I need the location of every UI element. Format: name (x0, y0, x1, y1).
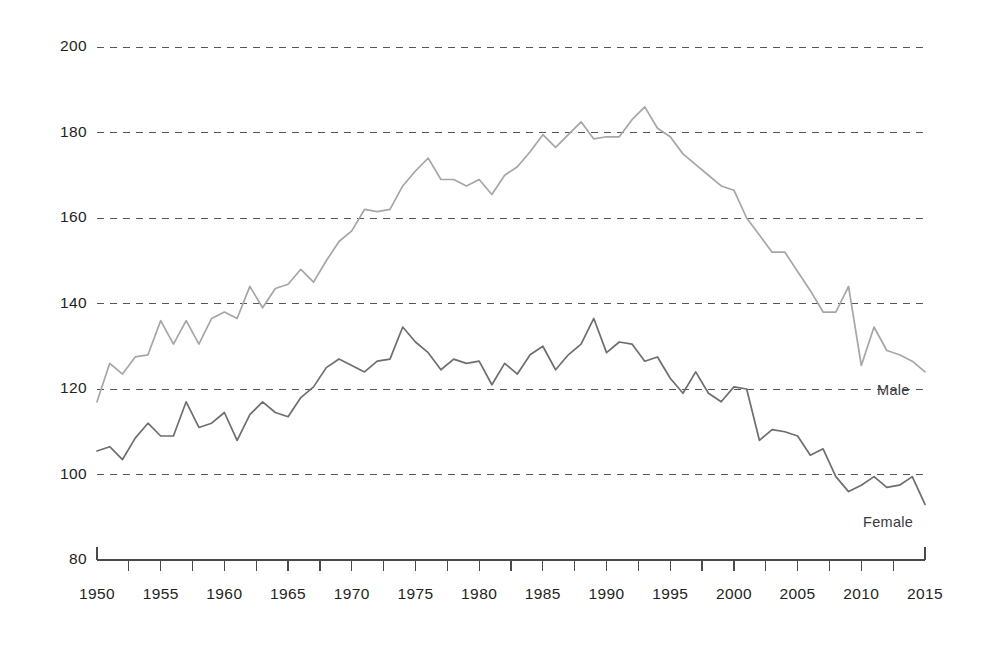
y-tick-label: 120 (35, 379, 87, 397)
x-tick-label: 2005 (768, 585, 828, 603)
gridlines (97, 47, 925, 475)
x-tick-label: 1970 (322, 585, 382, 603)
y-tick-label: 180 (35, 123, 87, 141)
x-tick-label: 1960 (194, 585, 254, 603)
x-tick-label: 2000 (704, 585, 764, 603)
y-tick-label: 80 (35, 550, 87, 568)
data-series (97, 107, 925, 505)
y-tick-label: 160 (35, 208, 87, 226)
y-tick-label: 140 (35, 294, 87, 312)
x-tick-label: 1965 (258, 585, 318, 603)
y-tick-label: 200 (35, 37, 87, 55)
x-tick-label: 1985 (513, 585, 573, 603)
chart-plot-area (0, 0, 983, 648)
x-tick-label: 1980 (449, 585, 509, 603)
series-label-female: Female (863, 514, 913, 530)
series-label-male: Male (877, 382, 910, 398)
x-tick-label: 2010 (831, 585, 891, 603)
x-tick-label: 1995 (640, 585, 700, 603)
line-chart: 20018016014012010080 1950195519601965197… (0, 0, 983, 648)
x-tick-label: 1955 (131, 585, 191, 603)
x-tick-label: 1975 (385, 585, 445, 603)
x-tick-label: 1990 (577, 585, 637, 603)
x-tick-label: 1950 (67, 585, 127, 603)
x-axis-ticks (129, 560, 893, 571)
x-tick-label: 2015 (895, 585, 955, 603)
axis-lines (97, 547, 925, 560)
y-tick-label: 100 (35, 465, 87, 483)
